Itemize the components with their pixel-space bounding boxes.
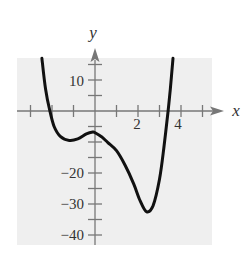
x-tick-label-2: 2 (133, 116, 141, 132)
x-tick-label-4: 4 (174, 116, 182, 132)
y-tick-label-minus40: −40 (61, 227, 84, 243)
y-tick-label-10: 10 (69, 73, 84, 89)
y-axis-label: y (87, 23, 97, 42)
y-tick-label-minus20: −20 (61, 165, 84, 181)
x-axis-label: x (231, 101, 240, 120)
y-tick-label-minus30: −30 (61, 196, 84, 212)
function-graph: y x 2 4 10 −20 −30 −40 (0, 0, 251, 258)
